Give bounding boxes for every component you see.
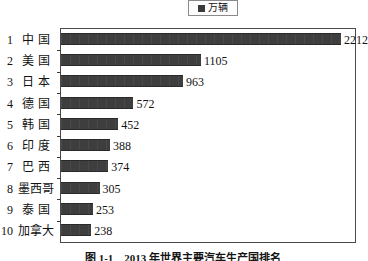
category-rank: 5 [0, 118, 13, 132]
category-rank: 8 [0, 182, 13, 196]
chart-bar[interactable] [61, 97, 133, 109]
axis-tick-mark [57, 199, 61, 200]
bar-value-label: 305 [103, 182, 121, 196]
chart-bar-row: 388 [61, 136, 355, 157]
category-rank: 1 [0, 33, 13, 47]
category-label: 4德 国 [0, 93, 57, 114]
figure-caption: 图 1-1 2013 年世界主要汽车生产国排名 [0, 252, 366, 261]
category-rank: 10 [0, 224, 13, 238]
chart-bar-row: 452 [61, 114, 355, 135]
category-rank: 6 [0, 139, 13, 153]
category-name: 泰 国 [15, 203, 57, 217]
category-name: 中 国 [15, 33, 57, 47]
chart-bar[interactable] [61, 139, 110, 151]
category-label: 1中 国 [0, 29, 57, 50]
bar-value-label: 963 [186, 75, 204, 89]
chart-bar-row: 572 [61, 93, 355, 114]
category-name: 德 国 [15, 97, 57, 111]
category-label: 6印 度 [0, 136, 57, 157]
category-label: 7巴 西 [0, 157, 57, 178]
category-name: 韩 国 [15, 118, 57, 132]
chart-legend: 万辆 [188, 0, 238, 16]
chart-bar-row: 963 [61, 72, 355, 93]
chart-bar[interactable] [61, 54, 201, 66]
bar-value-label: 238 [94, 224, 112, 238]
bar-value-label: 253 [96, 203, 114, 217]
category-label: 9泰 国 [0, 199, 57, 220]
legend-label: 万辆 [208, 3, 229, 13]
category-rank: 2 [0, 54, 13, 68]
category-name: 加拿大 [15, 224, 57, 238]
category-rank: 4 [0, 97, 13, 111]
category-label: 8墨西哥 [0, 178, 57, 199]
category-label: 10加拿大 [0, 221, 57, 242]
chart-plot-area: 22121105963572452388374305253238 [60, 28, 356, 243]
bar-value-label: 1105 [204, 54, 228, 68]
category-name: 美 国 [15, 54, 57, 68]
category-rank: 7 [0, 160, 13, 174]
chart-bar-row: 305 [61, 178, 355, 199]
category-name: 巴 西 [15, 160, 57, 174]
chart-bar[interactable] [61, 224, 91, 236]
chart-bar-row: 1105 [61, 50, 355, 71]
chart-bar[interactable] [61, 182, 100, 194]
category-rank: 9 [0, 203, 13, 217]
bar-value-label: 388 [113, 139, 131, 153]
category-name: 日 本 [15, 75, 57, 89]
axis-tick-mark [57, 50, 61, 51]
chart-bar[interactable] [61, 33, 341, 45]
filled-square-icon [198, 5, 205, 12]
chart-bar-row: 374 [61, 157, 355, 178]
chart-bar[interactable] [61, 75, 183, 87]
bar-value-label: 452 [121, 118, 139, 132]
category-label: 2美 国 [0, 50, 57, 71]
axis-tick-mark [57, 114, 61, 115]
chart-bar[interactable] [61, 118, 118, 130]
axis-tick-mark [57, 221, 61, 222]
category-rank: 3 [0, 75, 13, 89]
axis-tick-mark [57, 72, 61, 73]
chart-bar-row: 253 [61, 199, 355, 220]
axis-tick-mark [57, 93, 61, 94]
chart-bar[interactable] [61, 203, 93, 215]
chart-bar-row: 238 [61, 221, 355, 242]
chart-bar[interactable] [61, 160, 108, 172]
axis-tick-mark [57, 136, 61, 137]
bar-value-label: 572 [136, 97, 154, 111]
category-axis-labels: 1中 国2美 国3日 本4德 国5韩 国6印 度7巴 西8墨西哥9泰 国10加拿… [0, 28, 60, 243]
bar-value-label: 374 [111, 160, 129, 174]
category-name: 印 度 [15, 139, 57, 153]
category-name: 墨西哥 [15, 182, 57, 196]
chart-bar-row: 2212 [61, 29, 355, 50]
bar-value-label: 2212 [344, 33, 368, 47]
category-label: 3日 本 [0, 72, 57, 93]
axis-tick-mark [57, 178, 61, 179]
category-label: 5韩 国 [0, 114, 57, 135]
axis-tick-mark [57, 157, 61, 158]
